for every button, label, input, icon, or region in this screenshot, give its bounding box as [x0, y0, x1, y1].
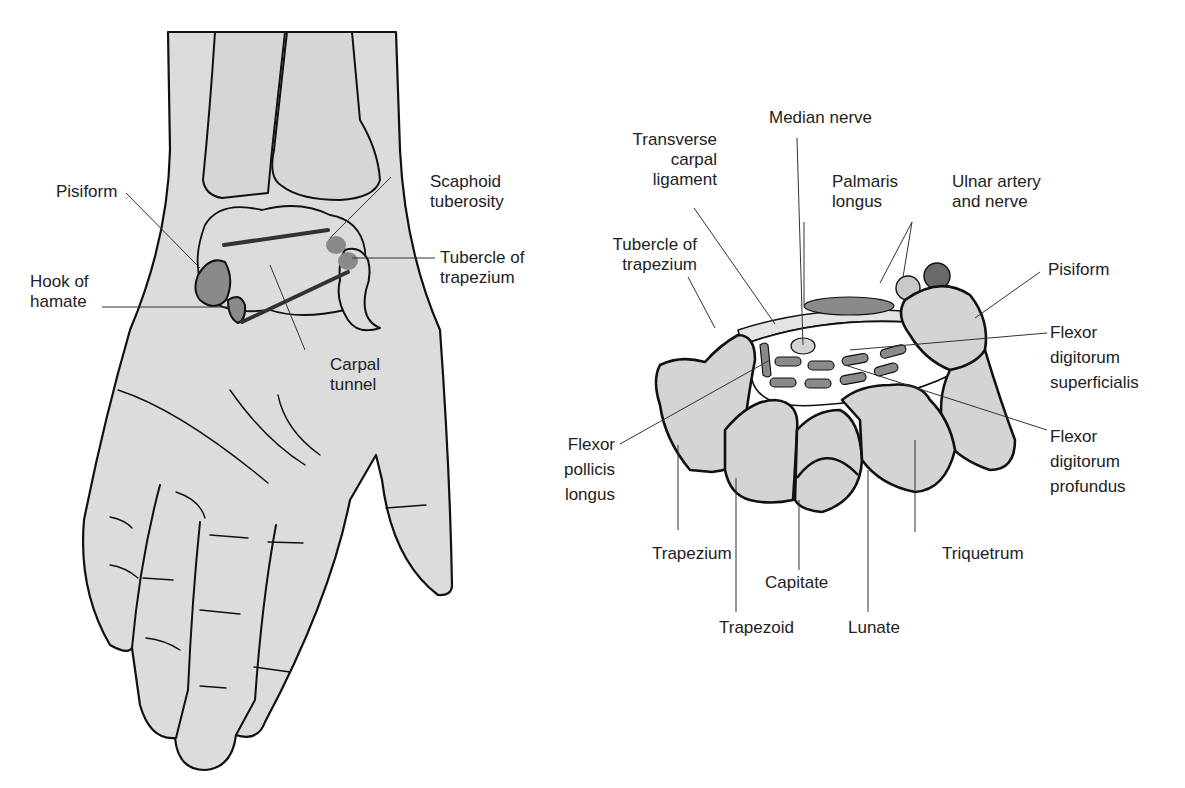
capitate-bone [795, 410, 862, 512]
label-flexor-digitorum-profundus: Flexor digitorum profundus [1050, 424, 1126, 499]
label-line: longus [832, 192, 898, 212]
label-line: Hook of [30, 272, 89, 292]
label-tubercle-of-trapezium-xs: Tubercle of trapezium [580, 235, 697, 275]
label-lunate: Lunate [848, 618, 900, 638]
cross-section-figure [656, 263, 1015, 512]
label-line: Tubercle of [580, 235, 697, 255]
label-line: Pisiform [1048, 260, 1109, 280]
label-line: Scaphoid [430, 172, 504, 192]
label-line: Median nerve [769, 108, 872, 128]
label-line: digitorum [1050, 345, 1139, 370]
label-line: superficialis [1050, 370, 1139, 395]
label-line: tunnel [330, 375, 380, 395]
label-pisiform-xs: Pisiform [1048, 260, 1109, 280]
label-scaphoid-tuberosity: Scaphoid tuberosity [430, 172, 504, 212]
label-line: longus [540, 482, 615, 507]
label-line: Triquetrum [942, 544, 1024, 564]
label-flexor-pollicis-longus: Flexor pollicis longus [540, 432, 615, 507]
label-line: Flexor [1050, 424, 1126, 449]
label-line: Ulnar artery [952, 172, 1041, 192]
hand-figure [83, 32, 452, 770]
label-line: Capitate [765, 573, 828, 593]
label-trapezium: Trapezium [652, 544, 732, 564]
label-ulnar-artery-nerve: Ulnar artery and nerve [952, 172, 1041, 212]
palmaris-longus [804, 297, 894, 315]
label-triquetrum: Triquetrum [942, 544, 1024, 564]
label-line: Trapezium [652, 544, 732, 564]
scaphoid-tuberosity-mark [326, 236, 346, 254]
label-line: ligament [590, 170, 717, 190]
label-line: trapezium [440, 268, 524, 288]
label-flexor-digitorum-superficialis: Flexor digitorum superficialis [1050, 320, 1139, 395]
label-line: carpal [590, 150, 717, 170]
label-line: Transverse [590, 130, 717, 150]
label-palmaris-longus: Palmaris longus [832, 172, 898, 212]
label-line: and nerve [952, 192, 1041, 212]
label-line: Pisiform [56, 182, 117, 202]
label-carpal-tunnel: Carpal tunnel [330, 355, 380, 395]
label-line: Flexor [1050, 320, 1139, 345]
label-pisiform: Pisiform [56, 182, 117, 202]
label-line: Flexor [540, 432, 615, 457]
label-hook-of-hamate: Hook of hamate [30, 272, 89, 312]
label-tubercle-of-trapezium: Tubercle of trapezium [440, 248, 524, 288]
label-line: hamate [30, 292, 89, 312]
label-line: Palmaris [832, 172, 898, 192]
label-line: tuberosity [430, 192, 504, 212]
label-line: digitorum [1050, 449, 1126, 474]
anatomy-drawing [0, 0, 1185, 788]
label-line: Tubercle of [440, 248, 524, 268]
label-capitate: Capitate [765, 573, 828, 593]
label-line: profundus [1050, 474, 1126, 499]
trapezium-tubercle-mark [338, 252, 358, 270]
label-trapezoid: Trapezoid [719, 618, 794, 638]
label-median-nerve: Median nerve [769, 108, 872, 128]
label-transverse-carpal-ligament: Transverse carpal ligament [590, 130, 717, 190]
label-line: Trapezoid [719, 618, 794, 638]
label-line: trapezium [580, 255, 697, 275]
label-line: Carpal [330, 355, 380, 375]
label-line: Lunate [848, 618, 900, 638]
label-line: pollicis [540, 457, 615, 482]
